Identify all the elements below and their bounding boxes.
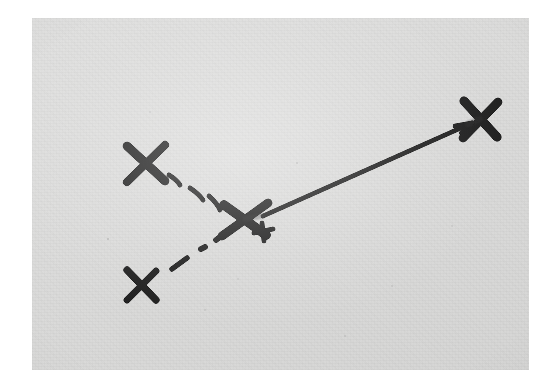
hand-drawn-figure xyxy=(32,18,529,370)
dust-specks xyxy=(107,111,453,337)
dash-dot-connector xyxy=(172,229,231,269)
x-mark-lower-left xyxy=(127,270,156,300)
photograph-print xyxy=(32,18,529,370)
x-mark-upper-left xyxy=(127,145,165,182)
page-root xyxy=(0,0,554,390)
solid-arrow-connector xyxy=(263,123,472,216)
dashed-arc-connector xyxy=(169,175,236,215)
